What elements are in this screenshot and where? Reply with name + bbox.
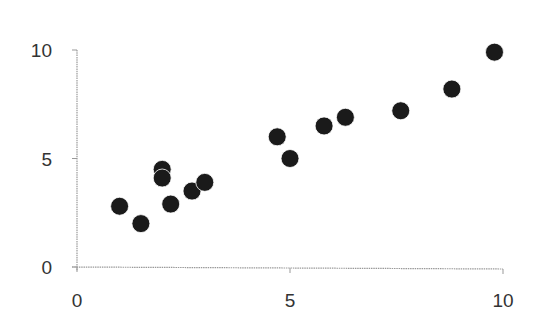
data-point [485,43,503,61]
y-tick-label: 0 [41,257,52,278]
scatter-chart: 0510 0510 [0,0,534,316]
data-point [336,108,354,126]
data-point [153,169,171,187]
y-tick-label: 5 [41,149,52,170]
data-point [196,173,214,191]
x-tick-label: 5 [285,290,296,311]
data-point [443,80,461,98]
y-tick-label: 10 [31,40,52,61]
x-tick-label: 0 [72,290,83,311]
x-axis-line [72,267,503,269]
data-point [315,117,333,135]
data-point [268,128,286,146]
x-tick-label: 10 [492,290,513,311]
data-point [132,215,150,233]
data-points [111,43,504,232]
data-point [111,197,129,215]
data-point [281,150,299,168]
x-axis-ticks: 0510 [72,267,514,311]
data-point [392,102,410,120]
data-point [162,195,180,213]
y-axis-ticks: 0510 [31,40,77,278]
